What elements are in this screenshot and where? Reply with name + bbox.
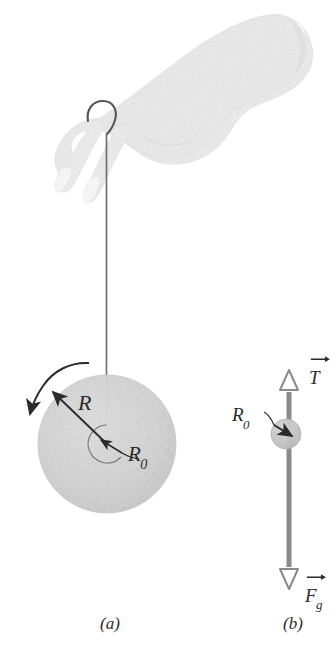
gravity-arrowhead-icon bbox=[280, 569, 298, 589]
axle-R0-leader-b bbox=[264, 412, 274, 425]
label-axle-R0-panel-a-sub: 0 bbox=[140, 456, 147, 472]
tension-arrowhead-icon bbox=[280, 370, 298, 390]
label-axle-R0-panel-a-main: R bbox=[128, 442, 141, 466]
label-gravity-Fg-main: F bbox=[305, 585, 317, 606]
label-tension-T-text: T bbox=[309, 367, 320, 388]
label-axle-R0-panel-b-main: R bbox=[232, 404, 244, 425]
caption-panel-b: (b) bbox=[283, 615, 303, 632]
label-gravity-Fg-wrap: Fg bbox=[305, 580, 323, 609]
label-axle-R0-panel-b-sub: 0 bbox=[243, 417, 249, 432]
caption-panel-a: (a) bbox=[100, 615, 120, 632]
label-gravity-Fg: Fg bbox=[305, 580, 323, 609]
label-axle-R0-panel-b: R0 bbox=[232, 405, 250, 429]
yoyo-figure: R R0 R0 T Fg (a) (b) bbox=[0, 0, 336, 652]
label-radius-R: R bbox=[78, 392, 91, 414]
label-axle-R0-panel-a: R0 bbox=[128, 444, 148, 468]
label-tension-T-wrap: T bbox=[309, 362, 320, 387]
panel-b-graphics bbox=[0, 0, 336, 652]
label-gravity-Fg-sub: g bbox=[316, 597, 322, 612]
label-tension-T: T bbox=[309, 362, 320, 387]
